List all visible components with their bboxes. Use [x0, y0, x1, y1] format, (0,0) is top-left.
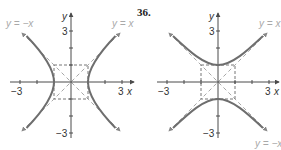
tick-y-neg-left: −3 — [56, 128, 68, 139]
tick-x-pos-left: 3 — [118, 86, 124, 97]
left-graph: y 3 −3 −3 3 x y = −x y = x — [5, 11, 134, 139]
x-axis-label-right: x — [273, 86, 280, 97]
right-graph: 36. y 3 −3 −3 3 x y = x y = −x — [137, 6, 281, 149]
y-axis-label-left: y — [61, 11, 68, 22]
tick-y-pos-right: 3 — [209, 26, 215, 37]
x-axis-label-left: x — [126, 86, 133, 97]
asymptote-label-neg-left: y = −x — [5, 18, 34, 29]
asymptote-label-neg-right: y = −x — [254, 138, 281, 149]
asymptote-label-pos-left: y = x — [111, 18, 134, 29]
problem-number: 36. — [137, 6, 151, 18]
tick-x-neg-right: −3 — [158, 86, 170, 97]
asymptote-label-pos-right: y = x — [258, 18, 281, 29]
tick-y-pos-left: 3 — [62, 26, 68, 37]
tick-x-neg-left: −3 — [11, 86, 23, 97]
tick-y-neg-right: −3 — [203, 128, 215, 139]
hyperbola-figures: y 3 −3 −3 3 x y = −x y = x 36. y 3 −3 − — [0, 0, 281, 150]
tick-x-pos-right: 3 — [265, 86, 271, 97]
y-axis-label-right: y — [208, 11, 215, 22]
